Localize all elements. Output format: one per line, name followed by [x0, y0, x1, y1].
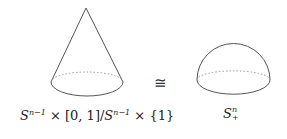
homeomorphic-symbol: ≅: [154, 74, 167, 92]
cone-label-base2: S: [104, 108, 113, 123]
hemisphere-shape: [197, 44, 270, 95]
hemisphere-label-sub: +: [232, 114, 239, 122]
cone-label-rest2: × {1}: [130, 108, 174, 123]
hemisphere-label-base: S: [223, 106, 232, 121]
cone-label-rest1: × [0, 1]/: [46, 108, 105, 123]
cone-label: Sn−1 × [0, 1]/Sn−1 × {1}: [20, 108, 174, 123]
cone-shape: [51, 8, 123, 96]
hemisphere-label: Sn+: [223, 106, 239, 122]
cone-label-base: S: [20, 108, 29, 123]
cone-label-sup: n−1: [29, 108, 46, 117]
cone-label-sup2: n−1: [113, 108, 130, 117]
